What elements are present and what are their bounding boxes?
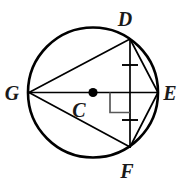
geometry-diagram: D E F G C: [0, 0, 183, 183]
label-point-F: F: [119, 160, 134, 182]
center-point-dot: [88, 88, 97, 97]
segment-GD: [29, 39, 130, 93]
label-point-E: E: [162, 82, 176, 104]
right-angle-icon: [110, 93, 130, 113]
circle-geometry-figure: D E F G C: [0, 0, 183, 183]
label-point-G: G: [5, 82, 20, 104]
label-point-D: D: [117, 8, 132, 30]
label-point-C: C: [72, 99, 86, 121]
